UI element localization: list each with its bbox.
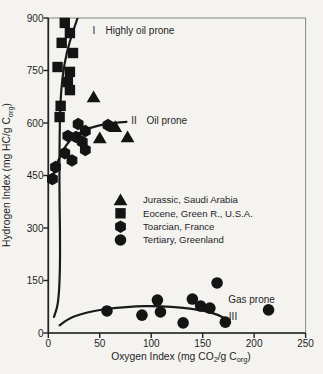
data-point-circle <box>136 309 148 321</box>
annotation: Gas prone <box>228 294 275 305</box>
annotation: I <box>93 25 96 36</box>
legend-label: Toarcian, France <box>143 221 214 232</box>
data-point-square <box>60 18 70 28</box>
figure: 0150300450600750900050100150200250Oxygen… <box>0 0 323 374</box>
y-tick-label: 750 <box>27 65 44 76</box>
data-point-circle <box>155 306 167 318</box>
y-tick-label: 900 <box>27 13 44 24</box>
data-point-square <box>68 48 78 58</box>
data-point-square <box>65 67 75 77</box>
y-tick-label: 150 <box>27 275 44 286</box>
data-point-square <box>65 28 75 38</box>
x-tick-label: 50 <box>94 338 106 349</box>
legend-marker-circle <box>115 234 127 246</box>
legend-marker-square <box>115 208 125 218</box>
annotation: Oil prone <box>147 115 188 126</box>
x-tick-label: 250 <box>297 338 314 349</box>
data-point-square <box>56 38 66 48</box>
x-tick-label: 100 <box>143 338 160 349</box>
y-tick-label: 300 <box>27 223 44 234</box>
x-tick-label: 0 <box>46 338 52 349</box>
scatter-chart: 0150300450600750900050100150200250Oxygen… <box>0 0 323 374</box>
data-point-circle <box>211 277 223 289</box>
data-point-circle <box>101 305 113 317</box>
legend-label: Eocene, Green R., U.S.A. <box>143 208 253 219</box>
y-tick-label: 450 <box>27 170 44 181</box>
y-tick-label: 600 <box>27 118 44 129</box>
y-tick-label: 0 <box>38 328 44 339</box>
x-tick-label: 200 <box>246 338 263 349</box>
data-point-square <box>52 62 62 72</box>
data-point-circle <box>204 302 216 314</box>
data-point-square <box>54 112 64 122</box>
annotation: II <box>131 115 137 126</box>
legend-label: Tertiary, Greenland <box>143 234 224 245</box>
data-point-square <box>55 101 65 111</box>
data-point-circle <box>152 294 164 306</box>
annotation: Highly oil prone <box>106 25 175 36</box>
legend-label: Jurassic, Saudi Arabia <box>143 194 239 205</box>
x-tick-label: 150 <box>194 338 211 349</box>
data-point-circle <box>177 317 189 329</box>
annotation: III <box>229 311 237 322</box>
data-point-circle <box>263 304 275 316</box>
data-point-square <box>65 85 75 95</box>
